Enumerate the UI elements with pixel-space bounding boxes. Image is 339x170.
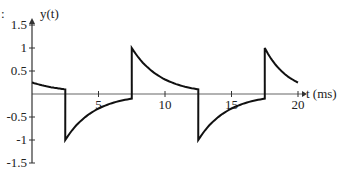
y-axis-label: y(t) <box>40 6 59 21</box>
y-tick-label: -0.5 <box>6 109 27 124</box>
x-tick-label: 10 <box>159 97 172 112</box>
fragment-label: : <box>1 6 5 21</box>
x-tick-label: 15 <box>225 97 238 112</box>
y-tick-label: 1.5 <box>11 17 27 32</box>
y-tick-label: -1 <box>16 132 27 147</box>
y-tick-label: 0.5 <box>11 63 27 78</box>
x-axis-label: t (ms) <box>306 86 337 101</box>
y-tick-label: -1.5 <box>6 155 27 170</box>
chart: : 51015201.510.5-0.5-1-1.5 y(t) t (ms) <box>0 0 339 170</box>
x-tick-label: 20 <box>292 97 305 112</box>
y-tick-label: 1 <box>21 40 28 55</box>
